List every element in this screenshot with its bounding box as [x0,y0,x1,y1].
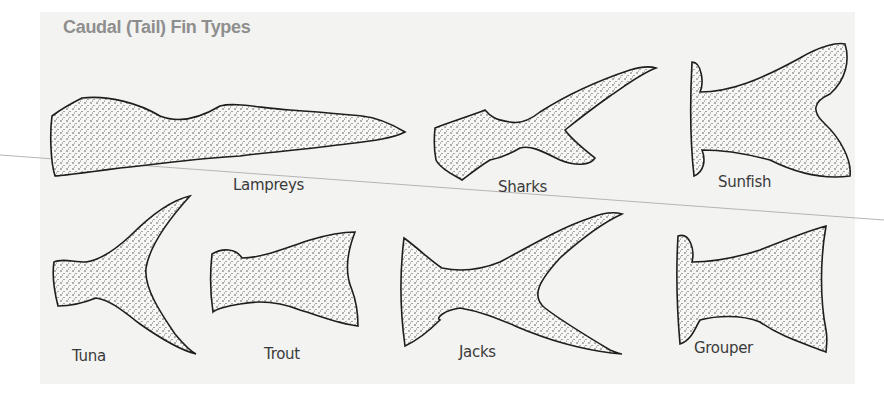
fin-illustrations [0,0,884,397]
sunfish-fin-shape [691,44,851,177]
trout-fin-shape [211,232,358,326]
label-trout: Trout [264,345,300,363]
label-jacks: Jacks [459,343,496,361]
grouper-fin-shape [677,226,827,352]
label-lampreys: Lampreys [233,176,304,194]
label-grouper: Grouper [694,339,753,357]
lamprey-fin-shape [51,97,405,176]
tuna-fin-shape [53,196,196,354]
jacks-fin-shape [401,213,622,354]
label-sharks: Sharks [498,178,547,196]
label-tuna: Tuna [72,347,106,365]
shark-fin-shape [434,67,656,180]
label-sunfish: Sunfish [718,173,771,191]
figure-title: Caudal (Tail) Fin Types [63,17,250,38]
